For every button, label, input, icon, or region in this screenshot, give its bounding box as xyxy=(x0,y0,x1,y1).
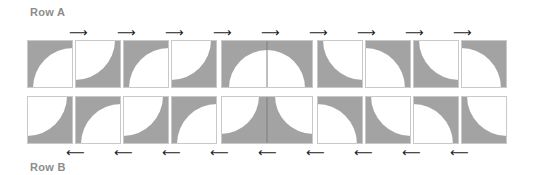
left-arrow-icon: ⟵ xyxy=(354,146,373,159)
tile-a2 xyxy=(75,40,121,88)
tile-b8 xyxy=(413,96,459,144)
tile-b7 xyxy=(365,96,411,144)
tile-b4 xyxy=(171,96,217,144)
left-arrow-icon: ⟵ xyxy=(210,146,229,159)
right-arrow-icon: ⟶ xyxy=(309,26,328,39)
right-arrow-icon: ⟶ xyxy=(117,26,136,39)
tile-b1 xyxy=(27,96,73,144)
tile-b5-double xyxy=(221,96,313,144)
left-arrow-icon: ⟵ xyxy=(258,146,277,159)
tile-b9 xyxy=(461,96,507,144)
tile-a9 xyxy=(461,40,507,88)
row-a-label: Row A xyxy=(30,6,65,18)
tile-a7 xyxy=(365,40,411,88)
tile-a8 xyxy=(413,40,459,88)
left-arrow-icon: ⟵ xyxy=(114,146,133,159)
left-arrow-icon: ⟵ xyxy=(162,146,181,159)
tile-a3 xyxy=(123,40,169,88)
right-arrow-icon: ⟶ xyxy=(261,26,280,39)
tile-b2 xyxy=(75,96,121,144)
tile-a4 xyxy=(171,40,217,88)
row-b-label: Row B xyxy=(30,161,66,173)
right-arrow-icon: ⟶ xyxy=(165,26,184,39)
tile-b6 xyxy=(317,96,363,144)
right-arrow-icon: ⟶ xyxy=(357,26,376,39)
right-arrow-icon: ⟶ xyxy=(213,26,232,39)
tile-a1 xyxy=(27,40,73,88)
left-arrow-icon: ⟵ xyxy=(402,146,421,159)
tile-b3 xyxy=(123,96,169,144)
left-arrow-icon: ⟵ xyxy=(66,146,85,159)
left-arrow-icon: ⟵ xyxy=(306,146,325,159)
right-arrow-icon: ⟶ xyxy=(69,26,88,39)
tile-a6 xyxy=(317,40,363,88)
right-arrow-icon: ⟶ xyxy=(453,26,472,39)
left-arrow-icon: ⟵ xyxy=(450,146,469,159)
right-arrow-icon: ⟶ xyxy=(405,26,424,39)
tile-a5-double xyxy=(221,40,313,88)
